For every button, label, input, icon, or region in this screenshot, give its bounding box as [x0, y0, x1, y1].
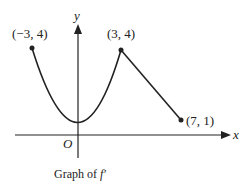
x-axis-label: x	[232, 127, 239, 142]
point-7-1	[179, 118, 184, 123]
point-3-4	[119, 48, 124, 53]
caption: Graph of f′	[54, 167, 106, 181]
origin-label: O	[63, 136, 73, 151]
point-label-7-1: (7, 1)	[186, 113, 214, 128]
parabola-curve	[32, 48, 121, 123]
point-neg3-4	[30, 46, 35, 51]
x-axis-arrow-icon	[221, 131, 231, 139]
graph-of-f-prime: (−3, 4) (3, 4) (7, 1) y x O Graph of f′	[0, 0, 243, 187]
y-axis-label: y	[72, 8, 80, 23]
caption-prefix: Graph of	[54, 167, 100, 181]
point-label-neg3-4: (−3, 4)	[12, 26, 48, 41]
y-axis-arrow-icon	[74, 24, 82, 34]
point-label-3-4: (3, 4)	[107, 26, 135, 41]
caption-function: f′	[100, 167, 106, 181]
line-segment	[121, 50, 181, 120]
